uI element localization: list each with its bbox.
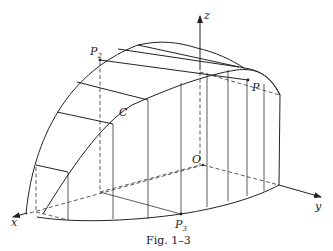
labels: z y x O P2 P C P3 Fig. 1–3 <box>11 9 322 247</box>
P-label: P <box>251 81 260 94</box>
z-axis-label: z <box>203 9 210 22</box>
P2-label: P2 <box>89 45 102 60</box>
vertical-lines <box>36 62 264 220</box>
figure-1-3: z y x O P2 P C P3 Fig. 1–3 <box>0 0 333 251</box>
front-arc <box>26 42 197 214</box>
curve-C <box>43 70 280 214</box>
y-axis-label: y <box>314 200 322 213</box>
C-label: C <box>119 106 128 119</box>
figure-caption: Fig. 1–3 <box>146 234 191 247</box>
ruling-p2-p <box>100 60 248 80</box>
base-line-p3 <box>100 192 181 214</box>
y-axis <box>279 185 321 197</box>
base-hidden-1 <box>100 165 200 192</box>
right-edge <box>279 95 280 185</box>
ruling-2 <box>77 82 148 100</box>
ruling-top-1 <box>118 49 239 67</box>
hidden-base <box>36 165 200 220</box>
x-axis-hidden <box>26 165 203 214</box>
point-P3 <box>180 213 183 216</box>
top-back-arc <box>197 48 280 95</box>
solid-outline <box>26 42 280 221</box>
x-axis-label: x <box>11 216 18 229</box>
surface-rulings <box>36 45 280 172</box>
ruling-4 <box>36 165 68 172</box>
y-axis-hidden <box>203 165 279 185</box>
origin-label: O <box>192 153 201 166</box>
ruling-3 <box>57 112 113 124</box>
solid-region-diagram: z y x O P2 P C P3 Fig. 1–3 <box>0 0 333 251</box>
point-P <box>247 79 250 82</box>
ruling-top-2 <box>138 45 244 68</box>
P3-label: P3 <box>174 218 187 233</box>
points <box>99 59 250 216</box>
base-curve <box>37 185 279 221</box>
point-O <box>202 164 204 166</box>
